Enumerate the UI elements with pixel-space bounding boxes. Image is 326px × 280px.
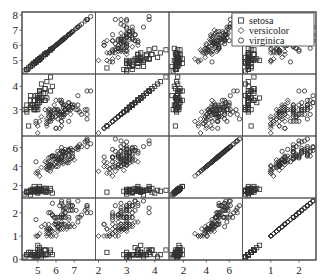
square-marker [136,57,140,61]
square-marker [249,64,253,68]
square-marker [249,57,253,61]
panel-r3-c2[interactable] [170,199,242,259]
circle-marker [216,126,220,130]
diamond-marker [199,110,204,115]
square-marker [246,54,250,58]
square-marker [252,58,256,62]
diamond-marker [271,231,276,236]
diamond-marker [277,227,282,232]
diamond-marker [277,227,282,232]
circle-marker [228,94,232,98]
square-marker [243,69,247,73]
square-marker [139,51,143,55]
circle-marker [119,149,123,153]
panel-r3-c3[interactable] [243,199,315,259]
square-marker [246,57,250,61]
square-marker [136,58,140,62]
circle-marker [133,199,137,203]
panel-r0-c2[interactable] [170,14,242,73]
circle-marker [308,46,312,50]
square-marker [27,124,31,128]
panel-r3-c0[interactable] [23,199,93,259]
circle-marker [210,60,214,64]
circle-marker [237,117,241,121]
panel-r2-c3[interactable] [243,137,315,197]
panel-r3-c1[interactable] [96,199,168,259]
square-marker [43,87,47,91]
square-marker [136,52,140,56]
y-tick-label: 4 [13,80,19,92]
circle-marker [102,43,106,47]
circle-marker [119,139,123,143]
square-marker [136,52,140,56]
square-marker [127,64,131,68]
square-marker [249,48,253,52]
square-marker [147,57,151,61]
square-marker [246,51,250,55]
square-marker [246,64,250,68]
panel-r1-c2[interactable] [170,75,242,136]
panel-r2-c2[interactable] [170,137,242,197]
square-marker [139,57,143,61]
diamond-marker [274,229,279,234]
square-marker [246,63,250,67]
diamond-marker [268,234,273,239]
square-marker [173,124,177,128]
x-tick-label: 5 [35,264,41,276]
panel-r0-c1[interactable] [96,14,168,73]
x-tick-label: 4 [152,264,158,276]
square-marker [243,61,247,65]
panel-r2-c0[interactable] [23,137,93,197]
panel-r0-c0[interactable] [23,14,93,73]
diamond-marker [198,131,203,136]
legend[interactable]: setosaversicolorvirginica [232,13,314,46]
circle-marker [300,101,304,105]
square-marker [257,96,261,100]
square-marker [139,55,143,59]
diamond-marker [274,229,279,234]
y-tick-label: 0 [13,253,19,265]
y-tick-label: 6 [13,142,19,154]
y-tick-label: 1 [13,230,19,242]
diamond-marker [277,227,282,232]
x-tick-label: 4 [204,264,210,276]
circle-marker [85,112,89,116]
square-marker [176,75,180,79]
panel-r1-c1[interactable] [96,75,168,136]
y-tick-label: 4 [13,161,19,173]
square-marker [246,57,250,61]
square-marker [43,248,47,252]
circle-marker [113,117,117,121]
square-marker [246,61,250,65]
circle-marker [141,199,145,203]
panel-r1-c3[interactable] [243,75,315,136]
square-marker [252,75,256,79]
diamond-marker [116,55,121,60]
circle-marker [102,155,106,159]
circle-marker [110,33,114,37]
square-marker [246,52,250,56]
x-tick-label: 2 [96,264,102,276]
circle-marker [308,112,312,116]
square-marker [127,60,131,64]
circle-marker [141,25,145,29]
diamond-marker [277,227,282,232]
square-marker [246,55,250,59]
diamond-marker [277,227,282,232]
diamond-marker [277,227,282,232]
square-marker [136,61,140,65]
legend-label: virginica [249,35,285,46]
square-marker [252,52,256,56]
square-marker [246,67,250,71]
diamond-marker [121,168,126,173]
panel-r2-c1[interactable] [96,137,168,197]
square-marker [164,248,168,252]
circle-marker [147,14,151,18]
circle-marker [76,94,80,98]
circle-marker [311,101,315,105]
diamond-marker [268,234,273,239]
circle-marker [147,211,151,215]
square-marker [246,58,250,62]
panel-r1-c0[interactable] [23,75,93,136]
square-marker [155,55,159,59]
